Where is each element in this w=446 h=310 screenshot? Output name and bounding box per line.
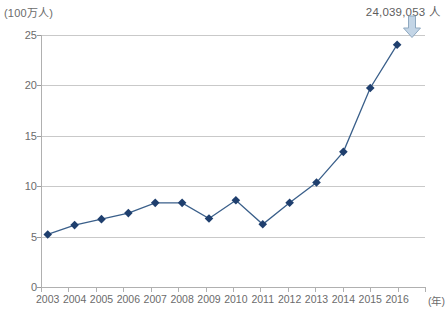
y-axis-tick-mark (37, 186, 41, 187)
y-axis-unit-label: (100万人) (4, 4, 53, 20)
gridline (41, 85, 425, 86)
x-axis-tick-mark (96, 287, 97, 292)
x-axis-tick-label: 2007 (144, 293, 167, 305)
x-axis-tick-mark (41, 287, 42, 292)
x-axis-tick-label: 2011 (251, 293, 274, 305)
x-axis-tick-label: 2013 (305, 293, 328, 305)
x-axis-tick-mark (68, 287, 69, 292)
x-axis-tick-label: 2006 (117, 293, 140, 305)
x-axis-tick-mark (425, 287, 426, 292)
y-axis-line (41, 35, 42, 287)
x-axis-tick-label: 2014 (332, 293, 355, 305)
x-axis-tick-label: 2016 (385, 293, 408, 305)
gridline (41, 237, 425, 238)
x-axis-tick-mark (370, 287, 371, 292)
x-axis-tick-mark (260, 287, 261, 292)
gridline (41, 35, 425, 36)
y-axis-tick-label: 25 (3, 29, 37, 41)
y-axis-tick-mark (37, 35, 41, 36)
y-axis-tick-mark (37, 85, 41, 86)
x-axis-tick-label: 2005 (90, 293, 113, 305)
x-axis-tick-mark (343, 287, 344, 292)
plot-area (41, 35, 425, 287)
y-axis-tick-label: 15 (3, 130, 37, 142)
x-axis-tick-mark (151, 287, 152, 292)
x-axis-tick-mark (288, 287, 289, 292)
down-arrow-icon (402, 15, 422, 39)
y-axis-tick-mark (37, 136, 41, 137)
y-axis-tick-label: 5 (3, 231, 37, 243)
x-axis-tick-mark (398, 287, 399, 292)
x-axis-tick-label: 2004 (63, 293, 86, 305)
x-axis-tick-mark (233, 287, 234, 292)
x-axis-tick-mark (178, 287, 179, 292)
x-axis-tick-label: 2009 (197, 293, 220, 305)
y-axis-tick-labels: 0510152025 (0, 35, 37, 287)
x-axis-tick-label: 2010 (224, 293, 247, 305)
gridline (41, 186, 425, 187)
x-axis-tick-label: 2012 (278, 293, 301, 305)
y-axis-tick-label: 20 (3, 79, 37, 91)
x-axis-tick-mark (206, 287, 207, 292)
x-axis-tick-mark (315, 287, 316, 292)
x-axis-tick-mark (123, 287, 124, 292)
x-axis-tick-label: 2015 (359, 293, 382, 305)
x-axis-tick-label: 2008 (170, 293, 193, 305)
x-axis-unit-label: (年) (428, 293, 445, 308)
y-axis-tick-label: 0 (3, 281, 37, 293)
y-axis-tick-mark (37, 237, 41, 238)
gridline (41, 136, 425, 137)
line-chart: (100万人) 0510152025 24,039,053 人 (年) 2003… (0, 0, 446, 310)
x-axis-tick-label: 2003 (36, 293, 59, 305)
y-axis-tick-label: 10 (3, 180, 37, 192)
